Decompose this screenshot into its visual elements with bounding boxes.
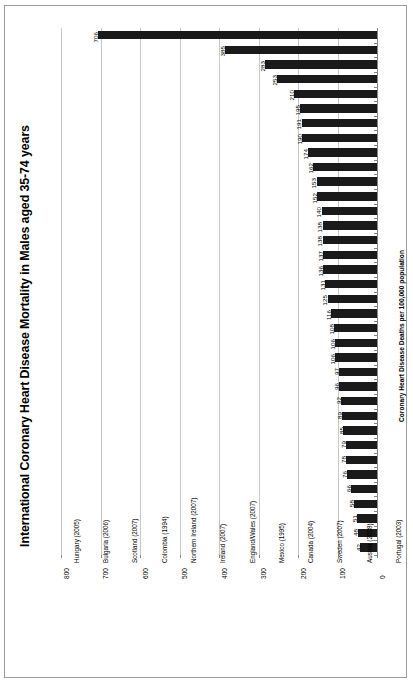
value-tick-0 [377,555,378,558]
bar[interactable] [334,324,377,332]
value-tick-700 [101,555,102,558]
bar[interactable] [339,368,377,376]
bar[interactable] [317,192,377,200]
bar-row[interactable]: 210 [61,87,377,102]
bar[interactable] [98,31,377,39]
bar[interactable] [308,148,377,156]
value-axis-title: Coronary Heart Disease Deaths per 100,00… [394,186,408,486]
bar-row[interactable]: 162 [61,160,377,175]
bar[interactable] [302,134,377,142]
bar-value-label: 137 [318,251,324,261]
bar[interactable] [342,412,377,420]
bar[interactable] [343,426,377,434]
chart-frame: International Coronary Heart Disease Mor… [4,5,407,678]
bar[interactable] [302,119,377,127]
bar-row[interactable]: 195 [61,101,377,116]
bar-row[interactable]: 174 [61,145,377,160]
bar-value-label: 58 [349,500,355,507]
bar-value-label: 48 [353,529,359,536]
bar[interactable] [277,75,377,83]
bar[interactable] [265,60,377,68]
category-label: Northern Ireland (2007) [191,498,197,563]
bar-value-label: 138 [317,222,323,232]
bar[interactable] [322,207,377,215]
bar[interactable] [346,441,377,449]
bar-value-label: 136 [318,266,324,276]
bar-value-label: 89 [337,412,343,419]
bar-value-label: 253 [272,76,278,86]
bar-value-label: 140 [317,207,323,217]
bar-row[interactable]: 92 [61,394,377,409]
bar[interactable] [354,500,377,508]
bar-row[interactable]: 125 [61,292,377,307]
bar-row[interactable]: 106 [61,350,377,365]
bar[interactable] [313,163,377,171]
bar-row[interactable]: 85 [61,423,377,438]
bar-value-label: 191 [296,119,302,129]
bar-value-label: 162 [308,163,314,173]
bar-row[interactable]: 66 [61,482,377,497]
bar-row[interactable]: 191 [61,116,377,131]
bar-row[interactable]: 140 [61,204,377,219]
bar-value-label: 116 [326,310,332,320]
bar-row[interactable]: 706 [61,28,377,43]
bar-row[interactable]: 137 [61,248,377,263]
bar[interactable] [331,309,377,317]
bar[interactable] [325,280,377,288]
value-tick-label: 500 [182,568,189,579]
bar-row[interactable]: 253 [61,72,377,87]
bar-row[interactable]: 108 [61,321,377,336]
bar-row[interactable]: 58 [61,496,377,511]
bar[interactable] [335,353,377,361]
bar-value-label: 174 [303,149,309,159]
bar-row[interactable]: 385 [61,43,377,58]
bar-row[interactable]: 152 [61,189,377,204]
bar-value-label: 79 [341,441,347,448]
bar-value-label: 106 [330,339,336,349]
bar-value-label: 190 [297,134,303,144]
bar[interactable] [347,470,377,478]
bar-row[interactable]: 131 [61,277,377,292]
bar-value-label: 66 [346,485,352,492]
bar[interactable] [300,104,377,112]
bar[interactable] [341,397,377,405]
bar[interactable] [225,46,377,54]
bar-value-label: 706 [93,32,99,42]
bar[interactable] [346,456,377,464]
bar-row[interactable]: 190 [61,130,377,145]
bar-row[interactable]: 106 [61,335,377,350]
bar[interactable] [357,514,377,522]
bar-row[interactable]: 97 [61,365,377,380]
bar-row[interactable]: 76 [61,467,377,482]
bar[interactable] [294,90,377,98]
bar[interactable] [339,382,377,390]
value-tick-label: 100 [340,568,347,579]
bar[interactable] [328,295,377,303]
bar-value-label: 97 [334,368,340,375]
bar[interactable] [351,485,377,493]
bar-row[interactable]: 138 [61,218,377,233]
value-tick-label: 800 [64,568,71,579]
bar-row[interactable]: 78 [61,453,377,468]
bar-row[interactable]: 96 [61,379,377,394]
bar-value-label: 283 [260,61,266,71]
bar-row[interactable]: 89 [61,409,377,424]
bar-value-label: 76 [342,471,348,478]
value-tick-200 [298,555,299,558]
bar[interactable] [335,339,377,347]
bar[interactable] [323,221,378,229]
bar-row[interactable]: 153 [61,174,377,189]
bar-row[interactable]: 116 [61,306,377,321]
bar-value-label: 385 [220,46,226,56]
chart-title: International Coronary Heart Disease Mor… [11,6,39,666]
bar[interactable] [323,251,377,259]
bar[interactable] [323,265,377,273]
bar-row[interactable]: 79 [61,438,377,453]
bar[interactable] [323,236,378,244]
bar-row[interactable]: 138 [61,233,377,248]
bar-row[interactable]: 136 [61,262,377,277]
bar-row[interactable]: 283 [61,57,377,72]
value-tick-label: 0 [380,575,387,579]
bar-value-label: 78 [341,456,347,463]
bar[interactable] [317,177,377,185]
